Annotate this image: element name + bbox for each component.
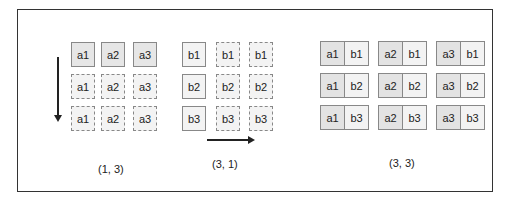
pair-b: b1: [403, 42, 426, 65]
pair-a: a1: [321, 106, 345, 129]
cell-b-1-0: b2: [182, 74, 206, 99]
pair-b: b3: [403, 106, 426, 129]
caption-c: (3, 3): [389, 157, 415, 169]
pair-b: b3: [461, 106, 484, 129]
pair-a: a2: [379, 42, 403, 65]
pair-2-0: a1b3: [320, 105, 369, 130]
cell-b-2-2: b3: [249, 106, 273, 131]
cell-a-0-0: a1: [71, 42, 95, 67]
cell-b-2-0: b3: [182, 106, 206, 131]
pair-b: b2: [345, 74, 368, 97]
caption-a: (1, 3): [98, 163, 124, 175]
pair-a: a3: [437, 42, 461, 65]
pair-1-2: a3b2: [436, 73, 485, 98]
cell-a-0-1: a2: [101, 42, 125, 67]
caption-b: (3, 1): [212, 158, 238, 170]
pair-b: b2: [461, 74, 484, 97]
pair-0-0: a1b1: [320, 41, 369, 66]
cell-a-1-1: a2: [101, 74, 125, 99]
cell-b-2-1: b3: [216, 106, 240, 131]
cell-a-0-2: a3: [133, 42, 157, 67]
cell-b-0-2: b1: [249, 42, 273, 67]
right-arrow-icon: [207, 139, 249, 141]
pair-2-2: a3b3: [436, 105, 485, 130]
pair-a: a3: [437, 74, 461, 97]
down-arrow-icon: [57, 57, 59, 117]
pair-a: a1: [321, 74, 345, 97]
cell-a-2-1: a2: [101, 106, 125, 131]
cell-b-1-2: b2: [249, 74, 273, 99]
pair-a: a3: [437, 106, 461, 129]
cell-a-2-0: a1: [71, 106, 95, 131]
cell-b-0-1: b1: [216, 42, 240, 67]
pair-1-0: a1b2: [320, 73, 369, 98]
pair-1-1: a2b2: [378, 73, 427, 98]
pair-b: b3: [345, 106, 368, 129]
pair-a: a2: [379, 74, 403, 97]
pair-a: a2: [379, 106, 403, 129]
cell-b-0-0: b1: [182, 42, 206, 67]
pair-b: b2: [403, 74, 426, 97]
cell-b-1-1: b2: [216, 74, 240, 99]
pair-b: b1: [461, 42, 484, 65]
cell-a-2-2: a3: [133, 106, 157, 131]
diagram-frame: [17, 9, 493, 192]
pair-a: a1: [321, 42, 345, 65]
pair-b: b1: [345, 42, 368, 65]
pair-2-1: a2b3: [378, 105, 427, 130]
cell-a-1-2: a3: [133, 74, 157, 99]
cell-a-1-0: a1: [71, 74, 95, 99]
pair-0-1: a2b1: [378, 41, 427, 66]
pair-0-2: a3b1: [436, 41, 485, 66]
